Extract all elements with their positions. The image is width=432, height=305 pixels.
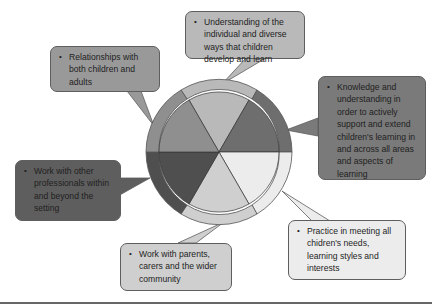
pointer-upper-left (127, 91, 154, 126)
pointer-bottom-right (282, 191, 330, 221)
callout-text: Understanding of the individual and dive… (204, 17, 287, 64)
callout-bottom: • Work with parents, carers and the wide… (120, 243, 232, 291)
callout-left: • Work with other professionals within a… (15, 160, 121, 221)
callout-bottom-right: • Practice in meeting all chidren's need… (288, 220, 406, 280)
pointer-bottom (178, 222, 224, 243)
inner-pie (159, 92, 279, 212)
callout-text: Knowledge and understanding in order to … (337, 82, 415, 179)
callout-text: Practice in meeting all chidren's needs,… (307, 226, 391, 273)
callout-upper-left: • Relationships with both children and a… (50, 46, 160, 92)
bullet-icon: • (24, 165, 27, 177)
bullet-icon: • (194, 16, 197, 28)
pointer-right (286, 118, 318, 136)
bullet-icon: • (327, 81, 330, 93)
bottom-rule (0, 302, 432, 304)
callout-text: Work with parents, carers and the wider … (139, 249, 217, 284)
bullet-icon: • (129, 248, 132, 260)
bullet-icon: • (59, 51, 62, 63)
callout-text: Relationships with both children and adu… (69, 52, 138, 87)
callout-right: • Knowledge and understanding in order t… (318, 76, 426, 180)
pointer-left (118, 178, 150, 196)
callout-text: Work with other professionals within and… (34, 166, 109, 213)
bullet-icon: • (297, 225, 300, 237)
callout-top: • Understanding of the individual and di… (185, 11, 305, 59)
